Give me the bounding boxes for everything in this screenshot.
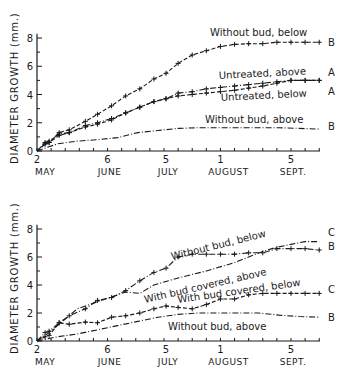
x-tick-month-label: MAY [35, 357, 55, 367]
significance-letter: B [328, 37, 335, 48]
significance-letter: B [328, 121, 335, 132]
plus-marker [260, 41, 265, 46]
plus-marker [289, 246, 294, 251]
x-tick-day-label: 2 [34, 154, 40, 165]
plus-marker [317, 248, 322, 253]
series-label-without-bud-below: Without bud, below [170, 228, 267, 262]
series-label-without-bud-above: Without bud, above [168, 321, 266, 332]
x-tick-month-label: SEPT. [280, 167, 307, 177]
plus-marker [164, 304, 169, 309]
series-label-without-bud-above: Without bud, above [205, 114, 303, 125]
significance-letter: A [328, 67, 335, 78]
y-tick-label: 2 [27, 308, 33, 319]
plus-marker [303, 246, 308, 251]
x-tick-day-label: 6 [104, 154, 110, 165]
x-tick-month-label: JUNE [97, 167, 122, 177]
x-tick-month-label: AUGUST [208, 357, 249, 367]
y-tick-label: 8 [27, 33, 33, 44]
y-axis-label: DIAMETER GROWTH (mm.) [9, 12, 20, 164]
x-tick-day-label: 6 [104, 344, 110, 355]
plus-marker [176, 305, 181, 310]
significance-letter: A [328, 86, 335, 97]
plus-marker [317, 40, 322, 45]
x-tick-day-label: 1 [217, 344, 223, 355]
plus-marker [137, 105, 142, 110]
significance-letter: B [328, 312, 335, 323]
plus-marker [190, 306, 195, 311]
top-panel: DIAMETER GROWTH (mm.) 024682MAY6JUNE5JUL… [9, 12, 335, 177]
plus-marker [289, 78, 294, 83]
plus-marker [190, 52, 195, 57]
x-tick-day-label: 5 [163, 344, 169, 355]
plus-marker [151, 270, 156, 275]
significance-letter: B [328, 241, 335, 252]
significance-letter: C [328, 227, 335, 238]
plus-marker [67, 130, 72, 135]
plus-marker [289, 291, 294, 296]
series-line [37, 128, 319, 151]
bottom-panel: DIAMETER GROWTH (mm.) 024682MAY6JUNE5JUL… [9, 202, 335, 367]
plus-marker [303, 78, 308, 83]
plus-marker [109, 315, 114, 320]
plus-marker [204, 48, 209, 53]
plus-marker [274, 291, 279, 296]
chart-figure: DIAMETER GROWTH (mm.) 024682MAY6JUNE5JUL… [0, 0, 343, 379]
y-tick-label: 8 [27, 224, 33, 235]
plus-marker [317, 291, 322, 296]
plus-marker [218, 44, 223, 49]
x-tick-month-label: AUGUST [208, 167, 249, 177]
y-axis-label: DIAMETER GROWTH (mm.) [9, 202, 20, 354]
significance-letter: C [328, 284, 335, 295]
y-tick-label: 0 [27, 336, 33, 347]
x-tick-day-label: 5 [288, 344, 294, 355]
plus-marker [289, 40, 294, 45]
plus-marker [164, 71, 169, 76]
plus-marker [260, 84, 265, 89]
plus-marker [204, 302, 209, 307]
y-tick-label: 4 [27, 280, 33, 291]
x-tick-day-label: 1 [217, 154, 223, 165]
x-tick-month-label: JULY [157, 357, 179, 367]
y-tick-label: 6 [27, 61, 33, 72]
x-tick-day-label: 2 [34, 344, 40, 355]
plus-marker [151, 99, 156, 104]
plus-marker [303, 291, 308, 296]
plus-marker [95, 112, 100, 117]
plus-marker [190, 92, 195, 97]
plus-marker [123, 110, 128, 115]
y-tick-label: 6 [27, 252, 33, 263]
plus-marker [246, 250, 251, 255]
plus-marker [303, 40, 308, 45]
plus-marker [232, 252, 237, 257]
plus-marker [232, 42, 237, 47]
plus-marker [164, 266, 169, 271]
plus-marker [95, 320, 100, 325]
series-label-without-bud-below: Without bud, below [210, 27, 307, 38]
y-tick-label: 0 [27, 146, 33, 157]
plus-marker [164, 96, 169, 101]
plus-marker [317, 78, 322, 83]
plus-marker [274, 40, 279, 45]
x-tick-day-label: 5 [288, 154, 294, 165]
x-tick-month-label: SEPT. [280, 357, 307, 367]
plus-marker [204, 91, 209, 96]
y-tick-label: 4 [27, 90, 33, 101]
plus-marker [67, 322, 72, 327]
axes: 024682MAY6JUNE5JULY1AUGUST5SEPT. [27, 33, 320, 177]
plus-marker [151, 76, 156, 81]
series-label-untreated-above: Untreated, above [219, 65, 307, 81]
plus-marker [83, 320, 88, 325]
x-tick-month-label: MAY [35, 167, 55, 177]
x-tick-month-label: JULY [157, 167, 179, 177]
plus-marker [151, 306, 156, 311]
plus-marker [123, 313, 128, 318]
plus-marker [218, 252, 223, 257]
y-tick-label: 2 [27, 118, 33, 129]
plus-marker [176, 93, 181, 98]
plus-marker [246, 41, 251, 46]
x-tick-month-label: JUNE [97, 357, 122, 367]
plus-marker [137, 311, 142, 316]
x-tick-day-label: 5 [163, 154, 169, 165]
